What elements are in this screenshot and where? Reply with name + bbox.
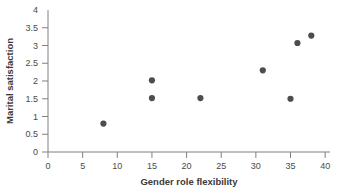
y-tick-label: 1: [33, 112, 38, 122]
data-point: [260, 67, 266, 73]
data-point: [287, 96, 293, 102]
y-tick-label: 0: [33, 147, 38, 157]
x-tick-label: 25: [216, 161, 226, 171]
y-axis-tick-marks: [42, 28, 48, 152]
x-tick-label: 0: [45, 161, 50, 171]
y-tick-label: 3: [33, 41, 38, 51]
data-point: [149, 77, 155, 83]
y-tick-label: 1.5: [25, 94, 38, 104]
data-point: [294, 40, 300, 46]
x-axis-tick-labels: 0510152025303540: [45, 161, 330, 171]
chart-canvas: 00.511.522.533.54 0510152025303540 Gende…: [0, 0, 337, 193]
data-point: [149, 95, 155, 101]
data-point: [197, 95, 203, 101]
y-tick-label: 4: [33, 5, 38, 15]
y-tick-label: 3.5: [25, 23, 38, 33]
scatter-plot-figure: 00.511.522.533.54 0510152025303540 Gende…: [0, 0, 337, 193]
data-point: [308, 32, 314, 38]
x-tick-label: 15: [147, 161, 157, 171]
x-axis-title: Gender role flexibility: [140, 176, 238, 187]
x-tick-label: 20: [182, 161, 192, 171]
y-tick-label: 2.5: [25, 58, 38, 68]
x-axis-tick-marks: [48, 152, 325, 158]
data-point: [100, 121, 106, 127]
y-tick-label: 2: [33, 76, 38, 86]
x-tick-label: 30: [251, 161, 261, 171]
y-axis-title: Marital satisfaction: [4, 38, 15, 124]
data-point-series: [100, 32, 314, 126]
x-tick-label: 5: [80, 161, 85, 171]
x-tick-label: 10: [112, 161, 122, 171]
x-tick-label: 35: [285, 161, 295, 171]
y-axis-tick-labels: 00.511.522.533.54: [25, 5, 38, 157]
x-tick-label: 40: [320, 161, 330, 171]
y-tick-label: 0.5: [25, 129, 38, 139]
